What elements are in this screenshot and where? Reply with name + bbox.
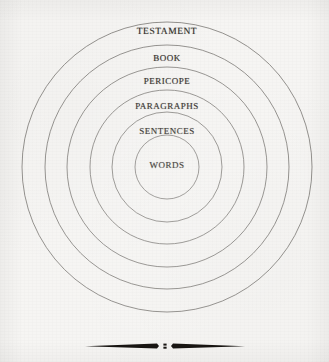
ring-label-paragraphs: PARAGRAPHS xyxy=(135,101,199,111)
ornament-center-dot-upper xyxy=(163,344,166,346)
ornament-right-spear xyxy=(171,344,245,349)
ring-label-book: BOOK xyxy=(153,53,180,63)
ring-label-pericope: PERICOPE xyxy=(144,76,190,86)
typographic-divider-ornament xyxy=(83,338,247,354)
ring-label-words: WORDS xyxy=(150,160,185,170)
diagram-stage: TESTAMENT BOOK PERICOPE PARAGRAPHS SENTE… xyxy=(0,0,329,362)
ring-label-testament: TESTAMENT xyxy=(137,27,197,37)
ornament-center-dot-lower xyxy=(163,347,166,349)
ornament-left-spear xyxy=(85,344,159,349)
ring-label-sentences: SENTENCES xyxy=(139,126,194,136)
